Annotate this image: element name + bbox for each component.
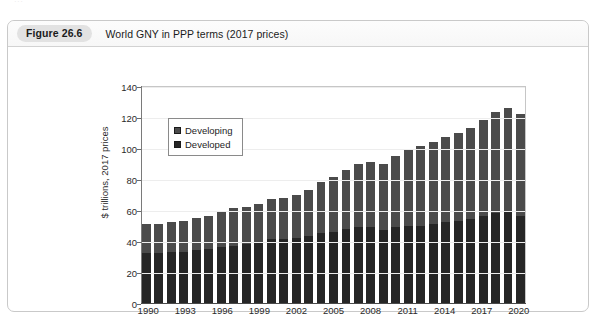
bar-segment-developed xyxy=(192,250,201,303)
y-tick-0: 0 xyxy=(103,299,137,310)
bar-segment-developing xyxy=(379,164,388,231)
y-tick-140: 140 xyxy=(103,82,137,93)
bar-segment-developing xyxy=(204,216,213,249)
bar-segment-developing xyxy=(167,222,176,251)
bar-segment-developing xyxy=(142,224,151,253)
bar-segment-developed xyxy=(491,213,500,303)
bar-segment-developing xyxy=(254,204,263,243)
bar-segment-developed xyxy=(454,221,463,303)
y-tickmark-40 xyxy=(137,242,141,243)
bar-segment-developed xyxy=(416,226,425,304)
x-tick-2002: 2002 xyxy=(286,305,307,316)
bar-segment-developing xyxy=(229,208,238,245)
bar-segment-developing xyxy=(416,146,425,225)
axis-frame-right xyxy=(525,86,526,304)
bar-segment-developing xyxy=(491,112,500,213)
y-tickmark-60 xyxy=(137,211,141,212)
y-tick-40: 40 xyxy=(103,237,137,248)
gridline-80 xyxy=(142,180,525,181)
bar-segment-developed xyxy=(179,252,188,303)
y-tickmark-0 xyxy=(137,304,141,305)
x-tick-1996: 1996 xyxy=(212,305,233,316)
figure-page: ··· Figure 26.6 World GNY in PPP terms (… xyxy=(0,0,598,324)
bar-segment-developed xyxy=(479,216,488,303)
legend-swatch-developing xyxy=(174,127,181,134)
bar-segment-developing xyxy=(304,190,313,237)
gridline-60 xyxy=(142,211,525,212)
bar-segment-developed xyxy=(404,226,413,304)
x-tick-2011: 2011 xyxy=(397,305,417,316)
y-tick-80: 80 xyxy=(103,175,137,186)
x-tick-2017: 2017 xyxy=(471,305,492,316)
y-axis-tick-labels: 020406080100120140 xyxy=(103,47,137,312)
figure-card: Figure 26.6 World GNY in PPP terms (2017… xyxy=(7,20,589,312)
bar-segment-developing xyxy=(329,177,338,231)
bar-segment-developed xyxy=(466,219,475,303)
chart-plot-area: $ trillions, 2017 prices 020406080100120… xyxy=(8,47,588,312)
legend-swatch-developed xyxy=(174,141,181,148)
legend-label-developing: Developing xyxy=(185,125,233,136)
bar-segment-developed xyxy=(142,253,151,303)
x-tick-2005: 2005 xyxy=(323,305,344,316)
legend-label-developed: Developed xyxy=(185,139,230,150)
y-tickmark-140 xyxy=(137,87,141,88)
bar-segment-developed xyxy=(504,212,513,303)
x-tick-1990: 1990 xyxy=(138,305,159,316)
x-tick-2014: 2014 xyxy=(434,305,455,316)
bar-segment-developing xyxy=(192,218,201,251)
bar-segment-developed xyxy=(304,236,313,303)
bar-segment-developed xyxy=(279,239,288,303)
bar-segment-developed xyxy=(292,238,301,303)
y-tickmark-120 xyxy=(137,118,141,119)
x-tick-1999: 1999 xyxy=(249,305,270,316)
y-tickmark-100 xyxy=(137,149,141,150)
gridline-20 xyxy=(142,273,525,274)
legend-item-developed[interactable]: Developed xyxy=(174,137,233,151)
y-tick-20: 20 xyxy=(103,268,137,279)
bar-segment-developed xyxy=(204,249,213,303)
bar-segment-developing xyxy=(404,150,413,226)
gridline-140 xyxy=(142,87,525,88)
bar-segment-developed xyxy=(267,239,276,303)
bar-segment-developing xyxy=(454,133,463,221)
bar-segment-developed xyxy=(516,216,525,303)
gridline-40 xyxy=(142,242,525,243)
figure-header: Figure 26.6 World GNY in PPP terms (2017… xyxy=(8,21,588,47)
bar-segment-developing xyxy=(267,199,276,239)
bar-segment-developing xyxy=(154,224,163,253)
x-tick-2008: 2008 xyxy=(360,305,381,316)
bar-segment-developed xyxy=(154,253,163,303)
bar-segment-developed xyxy=(167,252,176,303)
bar-segment-developing xyxy=(366,162,375,227)
bar-segment-developing xyxy=(391,156,400,227)
bar-segment-developing xyxy=(179,221,188,252)
bar-segment-developing xyxy=(292,195,301,238)
figure-title: World GNY in PPP terms (2017 prices) xyxy=(106,28,289,40)
y-tick-100: 100 xyxy=(103,144,137,155)
legend-item-developing[interactable]: Developing xyxy=(174,123,233,137)
bar-segment-developed xyxy=(441,222,450,303)
bar-segment-developed xyxy=(366,227,375,303)
y-tickmark-20 xyxy=(137,273,141,274)
bar-segment-developing xyxy=(317,182,326,233)
bar-segment-developing xyxy=(504,108,513,212)
y-tick-60: 60 xyxy=(103,206,137,217)
axis-frame-bottom xyxy=(141,303,526,304)
x-axis-tick-labels: 1990199319961999200220052008201120142017… xyxy=(141,305,526,323)
bar-segment-developing xyxy=(354,164,363,228)
bar-segment-developed xyxy=(391,227,400,303)
figure-number-badge: Figure 26.6 xyxy=(17,25,92,42)
bar-segment-developed xyxy=(342,229,351,303)
bar-segment-developing xyxy=(342,170,351,229)
bar-segment-developing xyxy=(479,120,488,216)
bar-segment-developing xyxy=(466,128,475,219)
y-tickmark-80 xyxy=(137,180,141,181)
bar-segment-developed xyxy=(217,247,226,303)
bar-segment-developed xyxy=(317,233,326,303)
bar-segment-developed xyxy=(229,246,238,303)
y-tick-120: 120 xyxy=(103,113,137,124)
x-tick-1993: 1993 xyxy=(175,305,196,316)
chart-legend: Developing Developed xyxy=(168,118,243,156)
x-tick-2020: 2020 xyxy=(508,305,529,316)
bar-segment-developed xyxy=(429,224,438,303)
